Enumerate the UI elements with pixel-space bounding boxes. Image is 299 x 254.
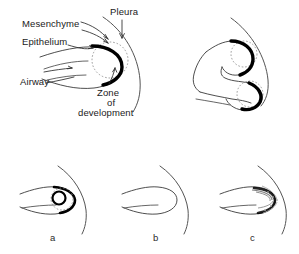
branched-pleura-curve	[231, 18, 268, 106]
mesenchyme-arrow-group	[81, 22, 108, 43]
figure-root: Mesenchyme Epithelium Airway Pleura Zone…	[0, 0, 299, 254]
pleura-leader-group	[120, 20, 125, 38]
branched-lumen-line	[196, 99, 230, 105]
airway-leader-lower	[46, 77, 74, 83]
epithelial-cap	[92, 46, 122, 85]
branched-outline-stem	[193, 52, 206, 92]
diagram-canvas: Mesenchyme Epithelium Airway Pleura Zone…	[0, 0, 299, 254]
panel-c-stipple-dot-1	[267, 191, 269, 193]
panel-a-pleura	[58, 166, 86, 234]
panel-a-lumen-line	[22, 205, 56, 208]
branched-cap-upper	[231, 41, 253, 75]
panel-c-stipple-dot-5	[276, 199, 278, 201]
airway-lumen-line-lower	[47, 75, 86, 80]
label-airway: Airway	[20, 76, 49, 87]
panel-c-stipple-group	[252, 186, 278, 213]
panel-c: c	[220, 166, 286, 243]
airway-lumen-line-upper	[44, 61, 88, 69]
panel-c-label: c	[250, 232, 255, 243]
panel-c-stipple-2	[256, 192, 270, 201]
panel-b-lumen-line	[124, 205, 158, 208]
panel-b-airway-outline	[122, 187, 177, 214]
label-pleura: Pleura	[110, 6, 139, 17]
panel-c-stipple-dot-4	[264, 209, 266, 211]
panel-a-developing-ring	[53, 192, 66, 205]
panel-c-stipple-dot-3	[270, 205, 272, 207]
panel-b: b	[122, 166, 188, 243]
label-zone-line3: development	[78, 107, 134, 118]
panel-a: a	[20, 166, 86, 243]
branched-figure	[193, 18, 268, 110]
panel-b-pleura	[160, 166, 188, 234]
label-epithelium: Epithelium	[22, 36, 67, 47]
panel-b-label: b	[153, 232, 158, 243]
panel-a-label: a	[50, 232, 56, 243]
panel-c-lumen-line	[222, 205, 256, 208]
airway-leader-upper-head	[68, 66, 72, 69]
panel-c-stipple-dot-2	[272, 196, 274, 198]
main-figure: Mesenchyme Epithelium Airway Pleura Zone…	[20, 6, 140, 118]
label-mesenchyme: Mesenchyme	[22, 18, 80, 29]
